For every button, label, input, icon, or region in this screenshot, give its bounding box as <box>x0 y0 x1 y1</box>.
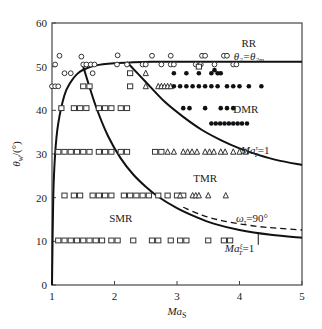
smr-marker <box>78 193 83 198</box>
smr-marker <box>118 106 123 111</box>
smr-marker <box>206 238 211 243</box>
smr-marker <box>149 238 154 243</box>
dmr-marker <box>209 84 214 89</box>
smr-marker <box>109 193 114 198</box>
smr-marker <box>99 238 104 243</box>
dmr-marker <box>225 84 230 89</box>
dmr-marker <box>209 121 214 126</box>
y-tick-label: 40 <box>36 104 48 116</box>
smr-marker <box>131 238 136 243</box>
rr-marker <box>56 84 61 89</box>
smr-marker <box>87 149 92 154</box>
smr-marker <box>178 238 183 243</box>
dmr-marker <box>181 106 186 111</box>
rr-marker <box>115 53 120 58</box>
smr-marker <box>103 149 108 154</box>
y-tick-label: 30 <box>36 148 48 160</box>
smr-marker <box>56 149 61 154</box>
y-tick-label: 60 <box>36 17 48 29</box>
tmr-marker <box>143 70 148 75</box>
smr-marker <box>159 149 164 154</box>
rr-marker <box>143 62 148 67</box>
dmr-marker <box>247 84 252 89</box>
region-label: TMR <box>193 172 218 184</box>
smr-marker <box>81 84 86 89</box>
rr-marker <box>212 62 217 67</box>
rr-marker <box>225 53 230 58</box>
tmr-marker <box>211 149 216 154</box>
dmr-marker <box>213 121 218 126</box>
rr-marker <box>57 53 62 58</box>
region-label: RR <box>242 37 257 49</box>
tmr-marker <box>206 192 211 197</box>
smr-marker <box>156 193 161 198</box>
smr-marker <box>81 149 86 154</box>
tmr-marker <box>171 149 176 154</box>
dmr-marker <box>245 121 250 126</box>
dmr-marker <box>218 106 223 111</box>
dmr-marker <box>231 84 236 89</box>
dmr-marker <box>197 71 202 76</box>
rr-marker <box>125 62 130 67</box>
tmr-marker <box>189 149 194 154</box>
y-axis-label: θw/(°) <box>10 141 25 167</box>
smr-marker <box>103 193 108 198</box>
smr-marker <box>103 106 108 111</box>
smr-marker <box>115 238 120 243</box>
dmr-marker <box>203 84 208 89</box>
rr-marker <box>79 54 84 59</box>
regime-map-chart: 123450102030405060MaSθw/(°) RRθ2=θ2mDMRT… <box>0 0 322 329</box>
smr-marker <box>153 149 158 154</box>
y-tick-label: 10 <box>36 235 48 247</box>
rr-marker <box>53 62 58 67</box>
smr-marker <box>196 64 201 69</box>
smr-marker <box>71 106 76 111</box>
y-tick-label: 0 <box>42 279 48 291</box>
y-tick-label: 20 <box>36 192 48 204</box>
rr-marker <box>203 53 208 58</box>
rr-marker <box>168 53 173 58</box>
smr-marker <box>96 106 101 111</box>
rr-marker <box>234 62 239 67</box>
smr-marker <box>140 193 145 198</box>
smr-marker <box>146 193 151 198</box>
dmr-marker <box>235 121 240 126</box>
x-tick-label: 5 <box>299 290 305 302</box>
smr-marker <box>109 106 114 111</box>
smr-marker <box>109 238 114 243</box>
dmr-marker <box>218 121 223 126</box>
dmr-marker <box>218 71 223 76</box>
tmr-marker <box>223 149 228 154</box>
dmr-marker <box>187 106 192 111</box>
smr-marker <box>78 106 83 111</box>
x-tick-label: 4 <box>237 290 243 302</box>
smr-marker <box>62 238 67 243</box>
tmr-marker <box>223 192 228 197</box>
smr-marker <box>165 193 170 198</box>
rr-marker <box>92 62 97 67</box>
boundary-curve <box>52 62 302 285</box>
dmr-marker <box>209 71 214 76</box>
dmr-marker <box>197 84 202 89</box>
curve-label: MaξT=1 <box>224 242 254 257</box>
smr-marker <box>81 238 86 243</box>
tmr-marker <box>196 192 201 197</box>
dmr-marker <box>227 121 232 126</box>
smr-marker <box>156 238 161 243</box>
rr-marker <box>68 71 73 76</box>
dmr-marker <box>190 84 195 89</box>
dmr-marker <box>178 84 183 89</box>
smr-marker <box>128 193 133 198</box>
smr-marker <box>184 238 189 243</box>
rr-marker <box>62 71 67 76</box>
smr-marker <box>84 106 89 111</box>
dmr-marker <box>225 106 230 111</box>
y-tick-label: 50 <box>36 61 48 73</box>
tmr-marker <box>165 149 170 154</box>
rr-marker <box>115 62 120 67</box>
smr-marker <box>74 149 79 154</box>
smr-marker <box>56 238 61 243</box>
smr-marker <box>96 193 101 198</box>
x-tick-label: 1 <box>49 290 55 302</box>
x-tick-label: 2 <box>112 290 118 302</box>
